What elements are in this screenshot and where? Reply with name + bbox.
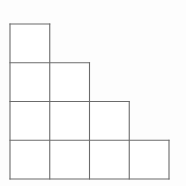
staircase-diagram [0,0,186,186]
grid-square [129,140,169,179]
grid-square [50,102,90,141]
grid-square [10,102,50,141]
grid-square [50,140,90,179]
grid-square [10,63,50,102]
grid-square [10,24,50,63]
grid-square [90,102,130,141]
grid-square [90,140,130,179]
figure-canvas [0,0,186,186]
grid-square [10,140,50,179]
grid-square [50,63,90,102]
